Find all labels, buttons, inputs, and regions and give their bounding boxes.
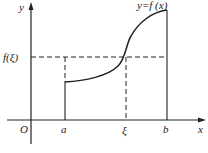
y-axis-arrow-icon [29, 2, 34, 10]
label-origin: O [20, 123, 28, 135]
label-x-axis: x [197, 123, 203, 135]
label-curve: y=f (x) [136, 0, 168, 12]
mean-value-diagram: y x O a ξ b f(ξ) y=f (x) [0, 0, 208, 153]
label-xi: ξ [122, 124, 127, 137]
label-y-axis: y [18, 1, 24, 13]
x-axis-arrow-icon [198, 118, 206, 123]
label-a: a [61, 123, 67, 135]
label-b: b [163, 123, 169, 135]
curve-f-x [65, 10, 167, 82]
label-f-xi: f(ξ) [3, 51, 18, 64]
